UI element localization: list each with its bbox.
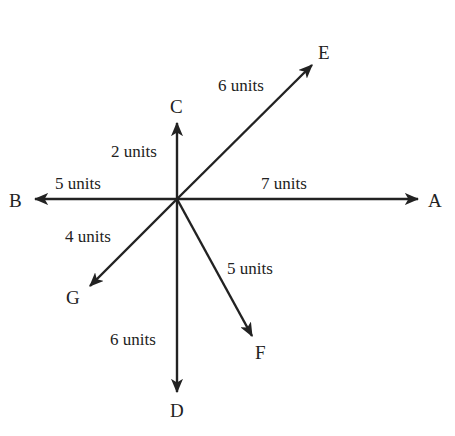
magnitude-label-f: 5 units (227, 260, 273, 277)
magnitude-label-c: 2 units (111, 143, 157, 160)
point-label-a: A (428, 191, 442, 210)
point-label-g: G (66, 288, 80, 307)
magnitude-label-b: 5 units (55, 175, 101, 192)
point-label-c: C (170, 97, 183, 116)
vector-diagram: A B C D E F G 7 units 5 units 2 units 6 … (0, 0, 455, 436)
vector-arrows (0, 0, 455, 436)
magnitude-label-d: 6 units (110, 331, 156, 348)
magnitude-label-e: 6 units (218, 77, 264, 94)
magnitude-label-a: 7 units (261, 175, 307, 192)
point-label-e: E (318, 43, 330, 62)
point-label-b: B (9, 191, 22, 210)
point-label-d: D (170, 401, 184, 420)
point-label-f: F (255, 343, 266, 362)
magnitude-label-g: 4 units (65, 228, 111, 245)
